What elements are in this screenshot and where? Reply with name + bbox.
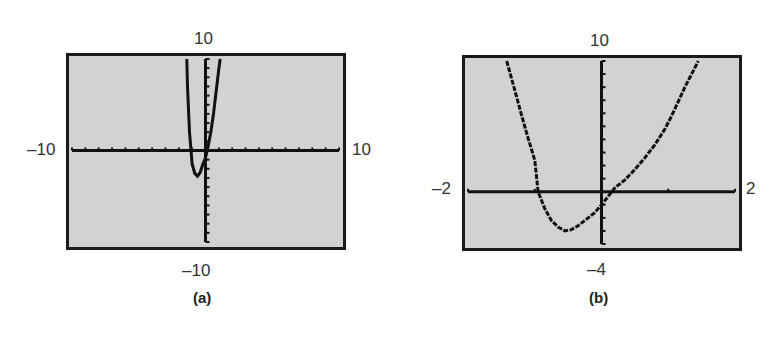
graph-panel-a: 10 –10 10 –10 (a) bbox=[0, 0, 390, 338]
plot-area-b bbox=[390, 0, 782, 338]
plot-area-a bbox=[0, 0, 390, 338]
function-curve bbox=[187, 59, 220, 176]
graph-panel-b: 10 –2 2 –4 (b) bbox=[390, 0, 782, 338]
